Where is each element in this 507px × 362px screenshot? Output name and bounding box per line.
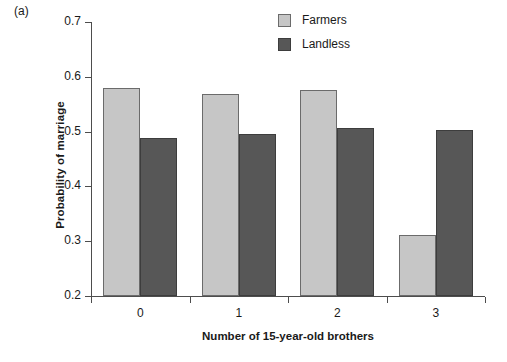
panel-label: (a) [14,4,29,18]
x-axis-tick-label: 3 [406,306,466,320]
y-axis-tick: 0.6 [85,77,91,78]
x-axis-tick-label: 0 [110,306,170,320]
plot-area: 0.20.30.40.50.60.7 0123 [91,22,485,296]
bar-landless-3 [436,130,473,296]
x-axis-tick [387,297,388,303]
y-axis-tick-label: 0.7 [64,14,81,28]
x-axis-tick [91,297,92,303]
y-axis-title: Probability of marriage [54,25,66,305]
y-axis-tick: 0.3 [85,241,91,242]
x-axis-tick [190,297,191,303]
bar-landless-2 [337,128,374,296]
figure-panel: (a) Probability of marriage Farmers Land… [0,0,507,362]
y-axis-tick-label: 0.3 [64,233,81,247]
bar-landless-1 [239,134,276,296]
bar-farmers-0 [103,88,140,296]
y-axis-tick: 0.7 [85,22,91,23]
y-axis-tick: 0.4 [85,186,91,187]
x-axis-tick [485,297,486,303]
y-axis-tick: 0.5 [85,132,91,133]
x-axis-tick-label: 2 [307,306,367,320]
y-axis-line [91,22,92,297]
bar-farmers-2 [300,90,337,296]
y-axis-tick-label: 0.6 [64,69,81,83]
y-axis-tick-label: 0.5 [64,124,81,138]
bar-farmers-3 [399,235,436,296]
x-axis-tick [288,297,289,303]
y-axis-tick-label: 0.4 [64,178,81,192]
bar-farmers-1 [202,94,239,296]
x-axis-tick-label: 1 [209,306,269,320]
x-axis-title: Number of 15-year-old brothers [91,330,485,342]
y-axis-tick-label: 0.2 [64,288,81,302]
bar-landless-0 [140,138,177,296]
